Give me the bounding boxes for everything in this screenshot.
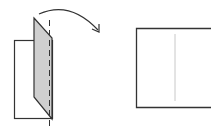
result-sheet <box>137 29 212 108</box>
unfold-arrow <box>39 10 98 30</box>
fold-diagram <box>0 0 211 129</box>
